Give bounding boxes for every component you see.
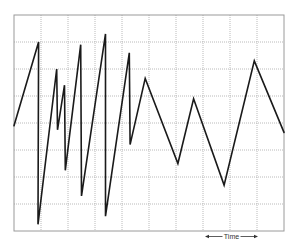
time-annotation: Time [205,233,258,240]
x-axis-label: Time [224,233,239,240]
grid-lines [14,15,284,231]
waveform-chart: Time [0,0,299,245]
arrowhead-left-icon [205,235,209,239]
arrowhead-right-icon [254,235,258,239]
